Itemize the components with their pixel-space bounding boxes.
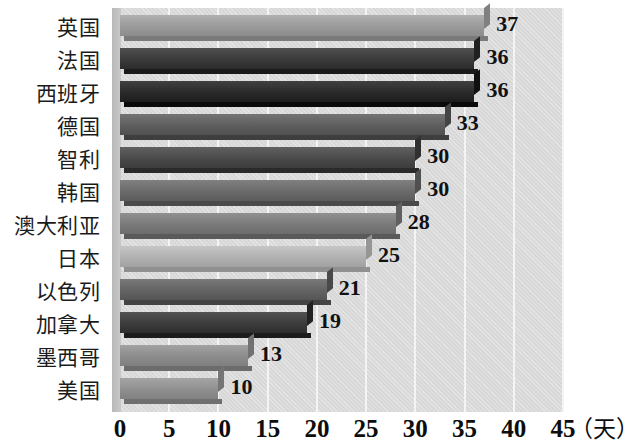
bar[interactable]: [120, 378, 218, 399]
bar-row: [120, 243, 376, 276]
bar-row: [120, 342, 258, 375]
x-tick-label: 10: [206, 412, 231, 446]
bar-row: [120, 375, 228, 408]
bar-end-cap: [415, 135, 421, 161]
bar-end-cap: [445, 102, 451, 128]
bar-end-cap: [484, 3, 490, 29]
bar[interactable]: [120, 15, 484, 36]
category-axis: 英国法国西班牙德国智利韩国澳大利亚日本以色列加拿大墨西哥美国: [0, 12, 106, 410]
bar-chart: 英国法国西班牙德国智利韩国澳大利亚日本以色列加拿大墨西哥美国 373636333…: [0, 0, 633, 446]
bar[interactable]: [120, 246, 366, 267]
bar[interactable]: [120, 312, 307, 333]
value-axis: （天） 051015202530354045: [112, 412, 633, 446]
bar-value-label: 10: [230, 376, 252, 397]
bar[interactable]: [120, 180, 415, 201]
category-label: 墨西哥: [36, 342, 101, 375]
bar-row: [120, 78, 484, 111]
bar-end-cap: [307, 300, 313, 326]
bar-row: [120, 144, 425, 177]
bar-value-label: 13: [260, 343, 282, 364]
bar-bottom-face: [124, 333, 311, 338]
bar-end-cap: [248, 333, 254, 359]
bar-bottom-face: [124, 135, 449, 140]
bar-bottom-face: [124, 36, 488, 41]
category-label: 日本: [57, 243, 100, 276]
x-tick-label: 25: [354, 412, 379, 446]
bar[interactable]: [120, 81, 474, 102]
bar[interactable]: [120, 279, 327, 300]
category-label: 澳大利亚: [14, 210, 100, 243]
bar[interactable]: [120, 114, 445, 135]
bar-bottom-face: [124, 234, 400, 239]
x-tick-label: 30: [403, 412, 428, 446]
bar-end-cap: [327, 267, 333, 293]
bar-row: [120, 45, 484, 78]
bar-value-label: 30: [427, 178, 449, 199]
bar-value-label: 36: [486, 79, 508, 100]
category-label: 西班牙: [36, 78, 101, 111]
bar-row: [120, 111, 455, 144]
bar-row: [120, 309, 317, 342]
bar-value-label: 19: [319, 310, 341, 331]
bar[interactable]: [120, 213, 396, 234]
bar-row: [120, 12, 494, 45]
bar-bottom-face: [124, 399, 222, 404]
category-label: 智利: [57, 144, 100, 177]
bar-value-label: 21: [339, 277, 361, 298]
x-tick-label: 5: [163, 412, 176, 446]
bar-end-cap: [415, 168, 421, 194]
category-label: 韩国: [57, 177, 100, 210]
bar-bottom-face: [124, 267, 370, 272]
bar-bottom-face: [124, 366, 252, 371]
bar-end-cap: [474, 36, 480, 62]
x-tick-label: 0: [114, 412, 127, 446]
x-tick-label: 45: [551, 412, 576, 446]
bar-bottom-face: [124, 168, 419, 173]
bar-bottom-face: [124, 69, 478, 74]
category-label: 英国: [57, 12, 100, 45]
bar-bottom-face: [124, 201, 419, 206]
x-tick-label: 40: [501, 412, 526, 446]
bars-layer: 373636333030282521191310: [112, 8, 563, 412]
category-label: 以色列: [36, 276, 101, 309]
category-label: 法国: [57, 45, 100, 78]
bar-value-label: 25: [378, 244, 400, 265]
bar-end-cap: [218, 366, 224, 392]
bar-end-cap: [366, 234, 372, 260]
category-label: 德国: [57, 111, 100, 144]
bar-value-label: 37: [496, 13, 518, 34]
x-tick-label: 20: [304, 412, 329, 446]
bar-row: [120, 177, 425, 210]
bar-row: [120, 210, 406, 243]
bar-value-label: 33: [457, 112, 479, 133]
bar-value-label: 36: [486, 46, 508, 67]
plot-area: 373636333030282521191310: [112, 8, 563, 412]
x-tick-label: 15: [255, 412, 280, 446]
bar-end-cap: [474, 69, 480, 95]
bar-end-cap: [396, 201, 402, 227]
x-tick-label: 35: [452, 412, 477, 446]
bar[interactable]: [120, 345, 248, 366]
bar-row: [120, 276, 337, 309]
bar-bottom-face: [124, 102, 478, 107]
bar[interactable]: [120, 48, 474, 69]
category-label: 加拿大: [36, 309, 101, 342]
bar[interactable]: [120, 147, 415, 168]
axis-unit-label: （天）: [570, 412, 633, 446]
bar-bottom-face: [124, 300, 331, 305]
category-label: 美国: [57, 375, 100, 408]
bar-value-label: 28: [408, 211, 430, 232]
bar-value-label: 30: [427, 145, 449, 166]
